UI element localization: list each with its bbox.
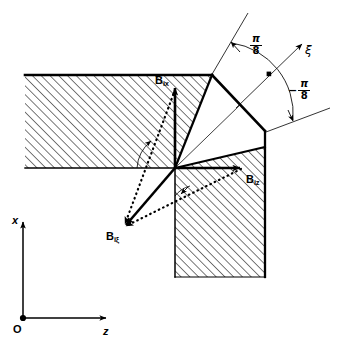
label-b-i-xi: Biξ <box>106 231 119 244</box>
figure-root: Bix Biz Biξ ξ x z O π 8 − π 8 <box>0 0 344 350</box>
label-angle-upper: π 8 <box>250 34 262 56</box>
label-origin: O <box>13 324 22 335</box>
label-b-iz: Biz <box>246 174 259 187</box>
reference-axes <box>20 222 106 321</box>
angle-arc-lower-arrowhead <box>288 110 293 121</box>
fraction-stack-lower: π 8 <box>298 79 310 101</box>
label-angle-lower: − π 8 <box>288 79 310 101</box>
label-axis-x: x <box>12 215 18 226</box>
upper-boundary-ray <box>211 13 248 76</box>
label-b-ix: Bix <box>155 75 169 88</box>
wedge-geometry-diagram <box>0 0 344 350</box>
label-axis-z: z <box>103 326 109 337</box>
origin-dot <box>20 315 26 321</box>
arc-center-dot <box>267 72 272 77</box>
lower-boundary-ray <box>266 108 330 132</box>
vector-b-i-resultant <box>126 168 175 225</box>
label-xi-axis: ξ <box>305 44 312 56</box>
